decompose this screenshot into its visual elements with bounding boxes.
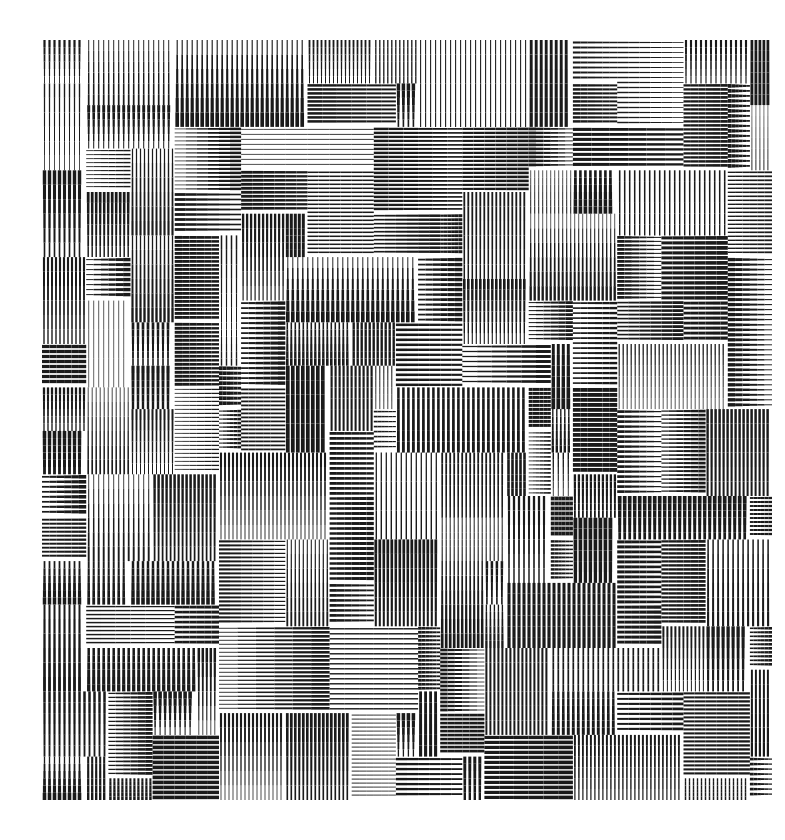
hatched-block	[221, 453, 325, 540]
hatched-block	[175, 237, 219, 317]
hatched-block	[684, 85, 728, 165]
hatched-block	[617, 542, 661, 602]
hatched-block	[575, 735, 679, 800]
hatched-block	[352, 715, 396, 795]
hatched-block	[175, 389, 219, 469]
hatched-block	[330, 433, 374, 493]
hatched-block	[153, 737, 219, 797]
hatched-block	[308, 172, 374, 252]
hatched-block	[728, 172, 772, 252]
hatched-block	[396, 325, 462, 385]
hatched-block	[484, 737, 573, 797]
hatched-block	[374, 129, 463, 209]
hatched-block	[553, 691, 613, 735]
hatched-block	[219, 628, 330, 708]
hatched-block	[661, 541, 705, 621]
hatched-block	[108, 693, 152, 773]
op-art-composition	[0, 0, 785, 840]
artwork-canvas	[0, 0, 785, 840]
hatched-block	[684, 693, 750, 773]
hatched-block	[219, 541, 285, 621]
hatched-block	[661, 411, 705, 491]
hatched-block	[661, 238, 727, 298]
